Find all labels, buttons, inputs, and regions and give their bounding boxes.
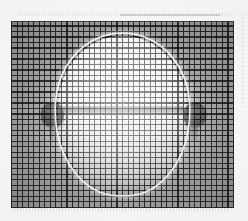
- scan-artifact-right-icon: [241, 14, 244, 110]
- projected-grid-lines: [11, 21, 234, 208]
- projected-grid-field: [11, 21, 234, 208]
- scan-artifact-bottom-icon: [14, 208, 228, 211]
- scan-artifact-top-line: [120, 14, 220, 16]
- scanned-page: Grayscale photograph of a rounded bowl-s…: [0, 0, 248, 221]
